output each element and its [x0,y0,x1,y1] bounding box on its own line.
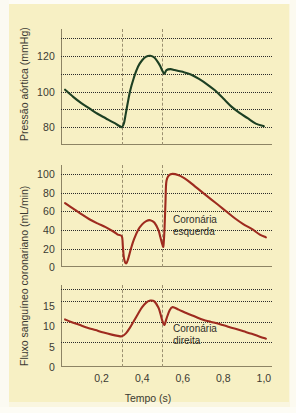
annotation-left-coronary-line2: esquerda [173,226,217,238]
y-tick-label: 15 [15,301,55,311]
coronary-flow-figure: 12010080 Pressão aórtica (mmHg) 10080604… [0,0,296,413]
x-tick-label: 0,6 [163,373,203,384]
panel-right-coronary: 151050 Coronária direita [61,285,272,367]
x-tick-label: 0,2 [82,373,122,384]
panel-left-coronary: 100806040200 Coronária esquerda [61,165,272,267]
y-tick-label: 100 [15,169,55,179]
paper-edge-left [0,0,9,413]
left-coronary-flow-curve [61,165,272,267]
y-axis-label-aortic-pressure: Pressão aórtica (mmHg) [18,27,30,141]
paper-edge-top [0,0,296,4]
right-coronary-flow-curve [61,285,272,367]
y-axis-label-coronary-flow: Fluxo sanguíneo coronariano (mL/min) [18,186,30,366]
annotation-left-coronary-line1: Coronária [173,214,217,226]
x-axis-label: Tempo (s) [0,392,296,404]
annotation-left-coronary: Coronária esquerda [173,214,217,237]
paper-edge-right [290,0,296,413]
annotation-right-coronary: Coronária direita [173,323,217,346]
aortic-pressure-curve [61,29,272,145]
x-tick-label: 0,4 [122,373,162,384]
annotation-right-coronary-line2: direita [173,335,217,347]
y-tick-label: 5 [15,342,55,352]
x-tick-label: 0,8 [203,373,243,384]
x-tick-label: 1,0 [244,373,284,384]
annotation-right-coronary-line1: Coronária [173,323,217,335]
panel-aortic-pressure: 12010080 [61,29,272,145]
y-tick-label: 0 [15,362,55,372]
y-tick-label: 10 [15,321,55,331]
paper-edge-bottom [0,407,296,413]
